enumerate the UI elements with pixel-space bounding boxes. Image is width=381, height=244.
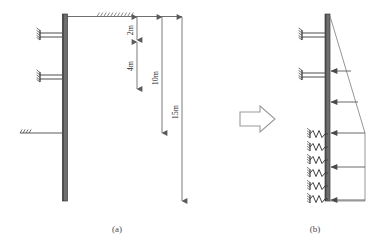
panel-b: (b) xyxy=(299,14,365,234)
excavation-base-line xyxy=(20,129,63,133)
dimension-15m-label: 15m xyxy=(171,104,180,119)
dimension-15m: 15m xyxy=(171,17,182,201)
strut-level-2 xyxy=(37,70,63,82)
dimension-2m-label: 2m xyxy=(126,24,135,35)
panel-a: 2m 4m 10m 15m (a) xyxy=(20,13,182,235)
earth-pressure-envelope xyxy=(330,16,365,201)
panel-a-caption: (a) xyxy=(112,224,122,234)
figure-canvas: 2m 4m 10m 15m (a) xyxy=(0,0,381,244)
strut-level-1 xyxy=(37,28,63,40)
earth-pressure-arrows xyxy=(331,71,365,200)
dimension-4m-label: 4m xyxy=(126,60,135,71)
engineering-figure: 2m 4m 10m 15m (a) xyxy=(0,0,381,244)
dimension-10m: 10m xyxy=(151,17,162,133)
strut-level-2 xyxy=(299,68,325,80)
dimension-10m-label: 10m xyxy=(151,70,160,85)
right-arrow-icon xyxy=(240,106,275,132)
dimension-2m: 2m xyxy=(126,17,137,40)
panel-b-caption: (b) xyxy=(310,224,321,234)
dimension-4m: 4m xyxy=(126,42,137,89)
ground-surface-hatch xyxy=(97,13,133,17)
strut-level-1 xyxy=(299,28,325,40)
